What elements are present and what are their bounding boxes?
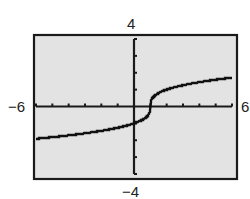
graph-screen	[0, 0, 250, 199]
